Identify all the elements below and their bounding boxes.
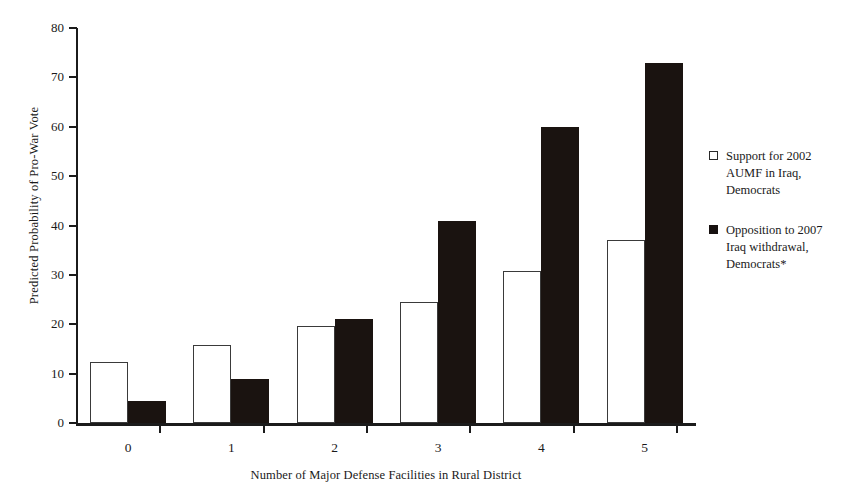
y-axis-tick-label: 20 (22, 317, 64, 330)
bar-1-series-2 (231, 379, 269, 423)
x-axis-tick (263, 426, 265, 433)
x-axis-tick (366, 426, 368, 433)
y-axis-title: Predicted Probability of Pro-War Vote (27, 76, 42, 336)
y-axis-tick-label: 30 (22, 268, 64, 281)
bar-3-series-1 (400, 302, 438, 423)
y-axis-tick-label: 60 (22, 120, 64, 133)
bar-4-series-2 (541, 127, 579, 423)
y-axis-tick-label: 10 (22, 367, 64, 380)
open-square-marker (709, 151, 718, 160)
legend-label-line: Support for 2002 (726, 148, 853, 165)
x-axis-tick-label: 4 (521, 440, 561, 456)
chart-legend: Support for 2002AUMF in Iraq,DemocratsOp… (709, 148, 853, 297)
bar-0-series-1 (90, 362, 128, 423)
bar-chart-figure: Predicted Probability of Pro-War Vote 01… (0, 0, 853, 495)
bar-5-series-1 (607, 240, 645, 423)
y-axis-tick-label: 50 (22, 169, 64, 182)
plot-area (76, 28, 694, 425)
y-axis-tick-label: 40 (22, 219, 64, 232)
filled-square-marker (709, 225, 718, 234)
x-axis-tick (573, 426, 575, 433)
bar-3-series-2 (438, 221, 476, 423)
x-axis-tick (676, 426, 678, 433)
legend-label-line: Iraq withdrawal, (726, 239, 853, 256)
x-axis-tick-label: 1 (211, 440, 251, 456)
x-axis-title: Number of Major Defense Facilities in Ru… (76, 468, 696, 483)
x-axis-tick-label: 2 (315, 440, 355, 456)
x-axis-tick (469, 426, 471, 433)
bar-5-series-2 (645, 63, 683, 423)
legend-label-line: Democrats (726, 182, 853, 199)
bar-4-series-1 (503, 271, 541, 423)
y-axis-tick-label: 80 (22, 21, 64, 34)
x-axis-tick-label: 3 (418, 440, 458, 456)
legend-entry-2[interactable]: Opposition to 2007Iraq withdrawal,Democr… (709, 222, 853, 272)
legend-entry-1[interactable]: Support for 2002AUMF in Iraq,Democrats (709, 148, 853, 198)
legend-label-line: AUMF in Iraq, (726, 165, 853, 182)
y-axis-tick-label: 0 (22, 416, 64, 429)
bar-2-series-1 (297, 326, 335, 423)
bar-2-series-2 (335, 319, 373, 423)
legend-label-line: Opposition to 2007 (726, 222, 853, 239)
bar-0-series-2 (128, 401, 166, 423)
legend-label-line: Democrats* (726, 256, 853, 273)
x-axis-tick (159, 426, 161, 433)
y-axis-tick-label: 70 (22, 70, 64, 83)
x-axis-tick-label: 5 (625, 440, 665, 456)
bar-1-series-1 (193, 345, 231, 423)
x-axis-tick-label: 0 (108, 440, 148, 456)
